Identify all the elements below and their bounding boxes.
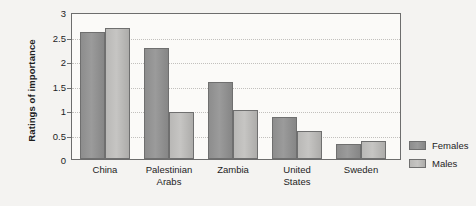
bar-zambia-females	[208, 82, 233, 159]
legend-label-males: Males	[432, 158, 457, 169]
legend-label-females: Females	[432, 140, 468, 151]
plot-area	[71, 13, 401, 160]
x-category-sweden-line-1: Sweden	[321, 164, 401, 176]
bar-united-states-males	[297, 131, 322, 159]
legend-swatch-males-icon	[409, 159, 426, 168]
x-category-palestinian-arabs-line-2: Arabs	[129, 176, 209, 188]
bar-chart-figure: Ratings of importance 3 2.5 2 1.5 1 0.5 …	[0, 0, 476, 206]
y-tick-0-5	[67, 137, 72, 138]
bar-china-females	[80, 32, 105, 159]
y-tick-label-1: 1	[36, 106, 66, 117]
bar-group-united-states	[272, 14, 324, 159]
bar-united-states-females	[272, 117, 297, 159]
legend-swatch-females-icon	[409, 141, 426, 150]
y-tick-label-0-5: 0.5	[36, 131, 66, 142]
chart-legend: Females Males	[409, 138, 468, 174]
bar-palestinian-arabs-females	[144, 48, 169, 159]
y-tick-label-2: 2	[36, 57, 66, 68]
bar-palestinian-arabs-males	[169, 112, 194, 159]
bar-china-males	[105, 28, 130, 159]
bar-group-china	[80, 14, 132, 159]
bar-group-palestinian-arabs	[144, 14, 196, 159]
y-tick-label-0: 0	[36, 155, 66, 166]
y-tick-1	[67, 112, 72, 113]
x-category-united-states-line-2: States	[257, 176, 337, 188]
x-category-sweden: Sweden	[321, 164, 401, 176]
y-tick-2-5	[67, 39, 72, 40]
y-tick-label-3: 3	[36, 8, 66, 19]
bar-sweden-males	[361, 141, 386, 159]
legend-item-males: Males	[409, 156, 468, 171]
y-tick-1-5	[67, 88, 72, 89]
y-tick-2	[67, 63, 72, 64]
bar-sweden-females	[336, 144, 361, 159]
bar-group-zambia	[208, 14, 260, 159]
y-tick-label-2-5: 2.5	[36, 33, 66, 44]
y-axis-title: Ratings of importance	[26, 16, 37, 166]
bar-group-sweden	[336, 14, 388, 159]
y-tick-label-1-5: 1.5	[36, 82, 66, 93]
legend-item-females: Females	[409, 138, 468, 153]
bar-zambia-males	[233, 110, 258, 159]
